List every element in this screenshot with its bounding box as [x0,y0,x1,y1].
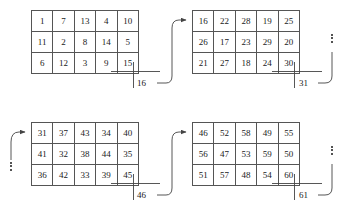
grid-cell: 5 [117,32,138,53]
grid-cell: 16 [193,11,214,32]
grid-cell: 50 [278,144,299,165]
grid-cell: 6 [32,53,53,74]
grid-cell: 2 [53,32,74,53]
grid-cell: 40 [117,123,138,144]
grid-2: 16 22 28 19 25 26 17 23 29 20 21 27 18 2… [192,10,300,74]
grid-cell: 21 [193,53,214,74]
grid-cell: 8 [74,32,95,53]
grid-cell: 4 [96,11,117,32]
grid-cell: 20 [278,32,299,53]
diagram-canvas: 1 7 13 4 10 11 2 8 14 5 6 12 3 9 15 [0,0,344,210]
grid-cell: 43 [74,123,95,144]
grid-cell: 57 [214,165,235,186]
grid-cell: 24 [257,53,278,74]
ellipsis-dot [331,149,333,151]
ellipsis-dot [331,34,333,36]
connector-label-46: 46 [137,190,146,200]
grid-cell: 7 [53,11,74,32]
grid-cell: 33 [74,165,95,186]
ellipsis-dot [10,165,12,167]
grid-cell: 37 [53,123,74,144]
grid-cell: 46 [193,123,214,144]
table-row: 21 27 18 24 30 [193,53,300,74]
grid-cell: 41 [32,144,53,165]
ellipsis-dot [331,146,333,148]
grid-cell: 19 [257,11,278,32]
grid-cell: 13 [74,11,95,32]
grid-cell: 38 [74,144,95,165]
grid-cell: 29 [257,32,278,53]
grid-cell: 31 [32,123,53,144]
ellipsis-dot [331,37,333,39]
table-row: 41 32 38 44 35 [32,144,139,165]
table-row: 11 2 8 14 5 [32,32,139,53]
ellipsis-top-right [328,32,336,44]
ellipsis-dot [10,162,12,164]
grid-cell: 3 [74,53,95,74]
grid-cell: 35 [117,144,138,165]
grid-cell: 25 [278,11,299,32]
table-row: 1 7 13 4 10 [32,11,139,32]
grid-cell: 34 [96,123,117,144]
grid-cell: 23 [235,32,256,53]
ellipsis-dot [10,169,12,171]
table-row: 36 42 33 39 45 [32,165,139,186]
grid-cell: 32 [53,144,74,165]
grid-cell: 47 [214,144,235,165]
grid-cell: 14 [96,32,117,53]
grid-cell: 11 [32,32,53,53]
table-row: 26 17 23 29 20 [193,32,300,53]
grid-cell: 12 [53,53,74,74]
grid-cell: 22 [214,11,235,32]
grid-cell: 59 [257,144,278,165]
table-row: 31 37 43 34 40 [32,123,139,144]
grid-cell: 45 [117,165,138,186]
connector-label-16: 16 [137,78,146,88]
grid-cell: 49 [257,123,278,144]
grid-cell: 44 [96,144,117,165]
grid-cell: 55 [278,123,299,144]
grid-3: 31 37 43 34 40 41 32 38 44 35 36 42 33 3… [31,122,139,186]
table-row: 46 52 58 49 55 [193,123,300,144]
grid-cell: 52 [214,123,235,144]
table-row: 51 57 48 54 60 [193,165,300,186]
ellipsis-dot [331,153,333,155]
grid-cell: 17 [214,32,235,53]
ellipsis-dot [331,41,333,43]
grid-cell: 42 [53,165,74,186]
grid-cell: 58 [235,123,256,144]
grid-cell: 9 [96,53,117,74]
table-row: 16 22 28 19 25 [193,11,300,32]
grid-cell: 28 [235,11,256,32]
grid-1: 1 7 13 4 10 11 2 8 14 5 6 12 3 9 15 [31,10,139,74]
ellipsis-bottom-left [7,160,15,172]
grid-cell: 27 [214,53,235,74]
table-row: 56 47 53 59 50 [193,144,300,165]
grid-cell: 51 [193,165,214,186]
grid-cell: 30 [278,53,299,74]
grid-cell: 26 [193,32,214,53]
grid-cell: 36 [32,165,53,186]
connector-label-61: 61 [299,190,308,200]
grid-cell: 56 [193,144,214,165]
grid-cell: 15 [117,53,138,74]
table-row: 6 12 3 9 15 [32,53,139,74]
ellipsis-bottom-right [328,144,336,156]
grid-cell: 54 [257,165,278,186]
grid-cell: 60 [278,165,299,186]
grid-cell: 10 [117,11,138,32]
grid-4: 46 52 58 49 55 56 47 53 59 50 51 57 48 5… [192,122,300,186]
grid-cell: 1 [32,11,53,32]
grid-cell: 39 [96,165,117,186]
grid-cell: 48 [235,165,256,186]
grid-cell: 53 [235,144,256,165]
connector-into-grid3 [11,132,25,160]
connector-label-31: 31 [299,78,308,88]
grid-cell: 18 [235,53,256,74]
